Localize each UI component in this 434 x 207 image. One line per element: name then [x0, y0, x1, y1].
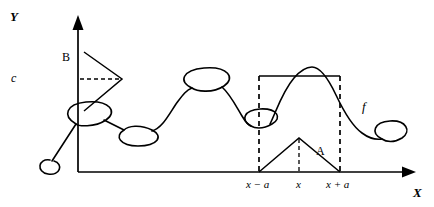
tick-label-x-plus-a: x + a: [326, 179, 349, 190]
axes-group: [73, 15, 417, 178]
segment-1: [52, 124, 76, 161]
y-axis-arrowhead: [73, 15, 84, 30]
y-axis-label: Y: [10, 10, 18, 23]
x-axis-label: X: [413, 186, 422, 199]
tick-label-x-minus-a: x − a: [246, 179, 269, 190]
kernel-b-label: B: [62, 51, 70, 63]
function-f-label: f: [362, 100, 366, 113]
tick-label-x-center: x: [296, 179, 301, 190]
figure-container: Y X c B A f x − a x x + a: [0, 0, 434, 207]
loop-3: [119, 126, 158, 146]
loop-6: [375, 121, 407, 142]
figure-canvas: [0, 0, 434, 207]
tent-a-label: A: [316, 145, 325, 157]
segment-2: [104, 120, 124, 130]
function-f-group: [40, 67, 407, 174]
tent-function-a-group: [259, 138, 340, 172]
segment-4: [222, 87, 251, 126]
x-axis-arrowhead: [402, 167, 416, 178]
c-level-label: c: [11, 72, 16, 84]
segment-3: [152, 88, 192, 131]
loop-1: [40, 160, 60, 174]
